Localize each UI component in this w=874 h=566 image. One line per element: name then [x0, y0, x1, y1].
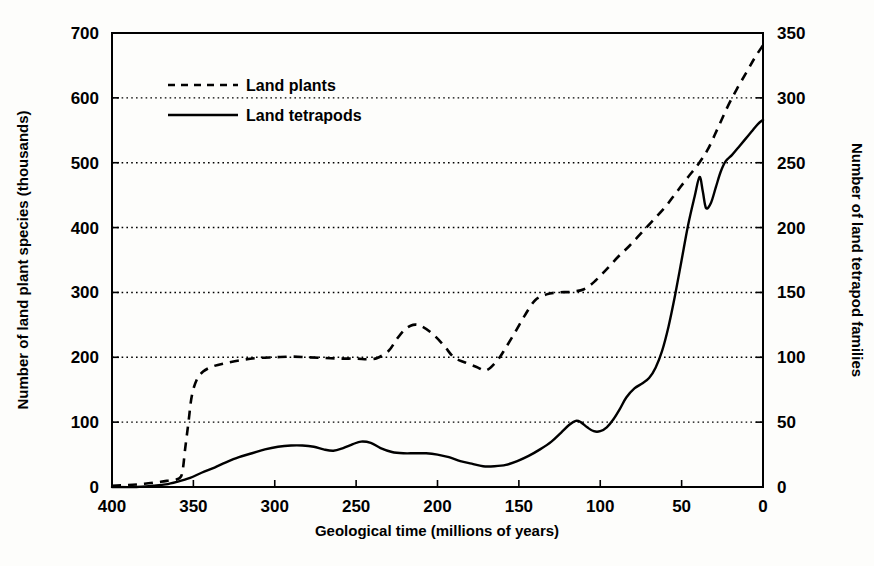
y2-tick-label: 100 [777, 348, 805, 367]
y-tick-label: 200 [71, 348, 99, 367]
y-tick-label: 0 [90, 478, 99, 497]
series-line-land-tetrapods [112, 120, 763, 487]
x-tick-label: 50 [672, 497, 691, 516]
figure-container: 0100200300400500600700050100150200250300… [0, 0, 874, 566]
y2-tick-label: 200 [777, 219, 805, 238]
y-tick-label: 700 [71, 24, 99, 43]
plot-frame [112, 33, 763, 487]
y2-tick-label: 300 [777, 89, 805, 108]
y2-tick-label: 50 [777, 413, 796, 432]
y2-tick-label: 250 [777, 154, 805, 173]
y-axis-title: Number of land plant species (thousands) [14, 110, 31, 409]
y-tick-label: 600 [71, 89, 99, 108]
legend-label-land-tetrapods: Land tetrapods [246, 107, 362, 124]
gridlines-group [112, 98, 763, 422]
x-tick-label: 150 [505, 497, 533, 516]
x-tick-label: 200 [423, 497, 451, 516]
y2-tick-label: 0 [777, 478, 786, 497]
tickmarks-group [112, 33, 763, 487]
y-tick-label: 500 [71, 154, 99, 173]
series-group [112, 45, 763, 487]
y-tick-label: 100 [71, 413, 99, 432]
x-tick-label: 300 [261, 497, 289, 516]
y-tick-label: 300 [71, 283, 99, 302]
y2-axis-title: Number of land tetrapod families [849, 143, 866, 377]
tick-labels-group: 0100200300400500600700050100150200250300… [71, 24, 806, 516]
x-tick-label: 350 [179, 497, 207, 516]
chart-legend: Land plants Land tetrapods [168, 77, 362, 124]
y-tick-label: 400 [71, 219, 99, 238]
x-tick-label: 250 [342, 497, 370, 516]
chart-canvas: 0100200300400500600700050100150200250300… [0, 0, 874, 566]
series-line-land-plants [112, 45, 763, 485]
legend-label-land-plants: Land plants [246, 77, 336, 94]
x-axis-title: Geological time (millions of years) [315, 522, 559, 539]
y2-tick-label: 150 [777, 283, 805, 302]
x-tick-label: 0 [758, 497, 767, 516]
y2-tick-label: 350 [777, 24, 805, 43]
x-tick-label: 100 [586, 497, 614, 516]
x-tick-label: 400 [98, 497, 126, 516]
